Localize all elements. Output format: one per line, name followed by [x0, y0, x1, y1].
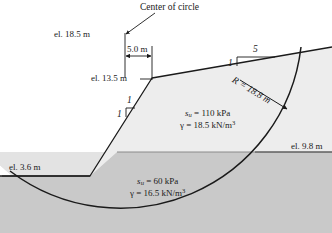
- lower-gamma-exponent: 3: [182, 187, 185, 194]
- lower-su-subscript: u: [141, 179, 144, 186]
- upper-gamma-exponent: 3: [232, 119, 235, 126]
- center-of-circle-label: Center of circle: [140, 2, 199, 13]
- lower-gamma-symbol: γ: [130, 188, 134, 198]
- upper-layer-gamma: γ = 18.5 kN/m3: [180, 119, 235, 130]
- lower-layer-gamma: γ = 16.5 kN/m3: [130, 187, 185, 198]
- lower-layer-properties: su = 60 kPa γ = 16.5 kN/m3: [130, 176, 185, 198]
- elevation-label-18-5: el. 18.5 m: [54, 29, 90, 39]
- upper-layer-properties: su = 110 kPa γ = 18.5 kN/m3: [180, 108, 235, 130]
- center-of-circle-leader-arrow: [126, 13, 155, 34]
- lower-su-value: = 60 kPa: [146, 176, 178, 186]
- upper-su-subscript: u: [189, 111, 192, 118]
- lower-layer-su: su = 60 kPa: [130, 176, 185, 187]
- upper-gamma-symbol: γ: [180, 120, 184, 130]
- slope-stability-figure: Center of circle el. 18.5 m 5.0 m el. 13…: [0, 0, 332, 233]
- upper-layer-su: su = 110 kPa: [180, 108, 235, 119]
- slope-ratio-1-1-horizontal-label: 1: [127, 95, 132, 106]
- slope-ratio-1-5-vertical-label: 1: [228, 58, 233, 69]
- slope-ratio-1-1-vertical-label: 1: [117, 109, 122, 120]
- upper-gamma-value: = 18.5 kN/m: [186, 120, 232, 130]
- elevation-label-13-5: el. 13.5 m: [91, 73, 127, 83]
- dimension-label-5m: 5.0 m: [127, 44, 148, 54]
- elevation-label-3-6: el. 3.6 m: [9, 162, 41, 172]
- slope-ratio-1-5-horizontal-label: 5: [253, 44, 258, 55]
- elevation-label-9-8: el. 9.8 m: [291, 141, 323, 151]
- upper-su-value: = 110 kPa: [194, 108, 230, 118]
- lower-gamma-value: = 16.5 kN/m: [136, 188, 182, 198]
- center-of-circle-marker: [125, 33, 152, 80]
